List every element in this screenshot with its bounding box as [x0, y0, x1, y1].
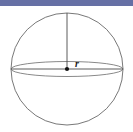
sphere-diagram-figure: r — [0, 0, 133, 132]
sphere-center-point — [65, 67, 69, 71]
radius-label: r — [75, 59, 79, 69]
sphere-drawing-canvas — [0, 0, 133, 132]
